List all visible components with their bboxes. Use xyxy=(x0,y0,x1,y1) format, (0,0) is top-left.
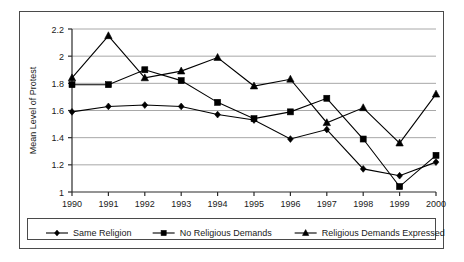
marker-square xyxy=(397,184,403,190)
x-tick-label: 1999 xyxy=(390,199,410,209)
x-tick-label: 2000 xyxy=(426,199,446,209)
chart-legend-entries: Same ReligionNo Religious DemandsReligio… xyxy=(46,228,445,238)
marker-triangle xyxy=(360,104,367,111)
y-axis-title: Mean Level of Protest xyxy=(28,66,38,154)
marker-triangle xyxy=(105,32,112,39)
marker-diamond xyxy=(55,230,60,236)
marker-diamond xyxy=(106,103,112,110)
x-tick-label: 1997 xyxy=(317,199,337,209)
x-tick-label: 1990 xyxy=(62,199,82,209)
marker-diamond xyxy=(69,108,75,115)
y-tick-label: 1 xyxy=(59,188,64,198)
chart-canvas: 11.21.41.61.822.2 1990199119921993199419… xyxy=(0,0,464,262)
marker-triangle xyxy=(432,90,439,97)
marker-square xyxy=(105,82,111,88)
marker-triangle xyxy=(214,54,221,61)
marker-square xyxy=(215,99,221,105)
marker-diamond xyxy=(178,103,184,110)
marker-square xyxy=(161,230,166,235)
y-tick-label: 1.8 xyxy=(51,79,64,89)
legend-label: Same Religion xyxy=(73,228,132,238)
marker-square xyxy=(287,109,293,115)
marker-square xyxy=(178,78,184,84)
chart-axes xyxy=(68,29,436,196)
marker-square xyxy=(324,95,330,101)
y-tick-label: 1.4 xyxy=(51,133,64,143)
marker-square xyxy=(433,152,439,158)
marker-square xyxy=(69,82,75,88)
y-tick-label: 2 xyxy=(59,52,64,62)
x-tick-label: 1996 xyxy=(280,199,300,209)
series-line xyxy=(72,36,436,143)
x-tick-label: 1995 xyxy=(244,199,264,209)
marker-diamond xyxy=(215,111,221,118)
chart-x-tick-labels: 1990199119921993199419951996199719981999… xyxy=(62,199,446,209)
x-tick-label: 1994 xyxy=(208,199,228,209)
y-tick-label: 2.2 xyxy=(51,25,64,35)
y-tick-label: 1.6 xyxy=(51,106,64,116)
legend-label: No Religious Demands xyxy=(180,228,273,238)
marker-diamond xyxy=(397,172,403,179)
marker-square xyxy=(251,116,257,122)
legend-label: Religious Demands Expressed xyxy=(322,228,445,238)
x-tick-label: 1998 xyxy=(353,199,373,209)
series-diamond xyxy=(69,102,439,179)
marker-diamond xyxy=(142,102,148,109)
chart-figure: 11.21.41.61.822.2 1990199119921993199419… xyxy=(0,0,464,262)
marker-triangle xyxy=(287,75,294,82)
marker-diamond xyxy=(288,136,294,143)
marker-square xyxy=(360,136,366,142)
marker-square xyxy=(142,67,148,73)
y-tick-label: 1.2 xyxy=(51,160,64,170)
series-triangle xyxy=(68,32,439,146)
chart-gridlines xyxy=(72,29,436,165)
chart-y-tick-labels: 11.21.41.61.822.2 xyxy=(51,25,64,198)
x-tick-label: 1992 xyxy=(135,199,155,209)
x-tick-label: 1993 xyxy=(171,199,191,209)
x-tick-label: 1991 xyxy=(98,199,118,209)
chart-y-axis-label: Mean Level of Protest xyxy=(28,66,38,154)
